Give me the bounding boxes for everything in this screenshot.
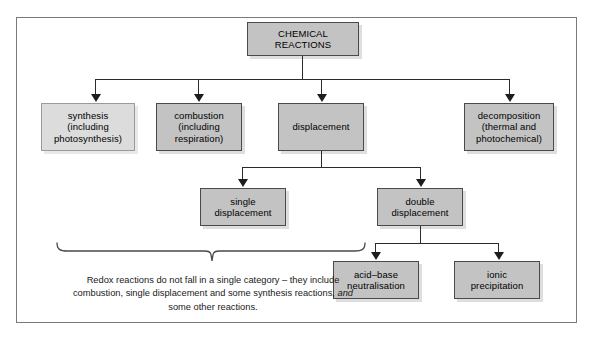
node-displacement-label: displacement xyxy=(289,121,352,132)
node-chemical-reactions-line2: REACTIONS xyxy=(275,39,331,50)
connector-level2-bus xyxy=(242,167,421,168)
node-combustion-label: combustion (including respiration) xyxy=(171,110,227,144)
connector-level3-bus xyxy=(375,243,498,244)
caption-emphasis: and xyxy=(338,288,354,298)
node-synthesis-line1: synthesis xyxy=(68,110,109,121)
node-decomposition-line2: (thermal and xyxy=(482,121,537,132)
node-double-displacement-label: double displacement xyxy=(388,196,451,218)
figure-canvas: CHEMICAL REACTIONS synthesis (including … xyxy=(0,0,596,341)
caption-part2: some other reactions. xyxy=(168,302,257,312)
node-single-displacement-label: single displacement xyxy=(211,196,274,218)
grouping-brace xyxy=(55,242,367,268)
figure-frame: CHEMICAL REACTIONS synthesis (including … xyxy=(16,17,577,323)
node-displacement[interactable]: displacement xyxy=(278,103,364,151)
node-double-displacement-line2: displacement xyxy=(391,207,448,218)
node-displacement-line1: displacement xyxy=(292,121,349,132)
node-decomposition-line3: photochemical) xyxy=(476,133,542,144)
caption-text: Redox reactions do not fall in a single … xyxy=(63,274,363,314)
node-chemical-reactions[interactable]: CHEMICAL REACTIONS xyxy=(247,22,359,56)
arrow-combustion xyxy=(194,94,204,102)
node-ionic-precipitation-label: ionic precipitation xyxy=(468,269,527,291)
caption-part1: Redox reactions do not fall in a single … xyxy=(73,275,339,298)
connector-displacement-stem xyxy=(321,151,322,167)
node-combustion-line1: combustion xyxy=(174,110,224,121)
node-single-displacement-line2: displacement xyxy=(214,207,271,218)
arrow-double-displacement xyxy=(416,179,426,187)
arrow-single-displacement xyxy=(238,179,248,187)
node-decomposition[interactable]: decomposition (thermal and photochemical… xyxy=(464,103,554,151)
node-double-displacement-line1: double xyxy=(405,196,434,207)
arrow-ionic-precipitation xyxy=(494,252,504,260)
node-ionic-precipitation[interactable]: ionic precipitation xyxy=(454,261,540,299)
node-decomposition-label: decomposition (thermal and photochemical… xyxy=(473,110,545,144)
node-synthesis[interactable]: synthesis (including photosynthesis) xyxy=(41,103,135,151)
arrow-acid-base-neutralisation xyxy=(371,252,381,260)
node-synthesis-line2: (including xyxy=(67,121,109,132)
node-single-displacement[interactable]: single displacement xyxy=(200,188,286,226)
node-decomposition-line1: decomposition xyxy=(478,110,541,121)
connector-double-displacement-stem xyxy=(420,226,421,243)
node-synthesis-line3: photosynthesis) xyxy=(54,133,122,144)
node-chemical-reactions-line1: CHEMICAL xyxy=(278,28,328,39)
node-combustion-line3: respiration) xyxy=(175,133,224,144)
node-double-displacement[interactable]: double displacement xyxy=(377,188,463,226)
arrow-displacement xyxy=(317,94,327,102)
node-combustion-line2: (including xyxy=(178,121,220,132)
connector-level1-bus xyxy=(95,79,510,80)
connector-root-stem xyxy=(302,56,303,79)
node-single-displacement-line1: single xyxy=(230,196,255,207)
node-chemical-reactions-label: CHEMICAL REACTIONS xyxy=(272,28,334,50)
node-synthesis-label: synthesis (including photosynthesis) xyxy=(51,110,125,144)
node-ionic-precipitation-line1: ionic xyxy=(487,269,507,280)
grouping-brace-path xyxy=(57,243,365,261)
node-ionic-precipitation-line2: precipitation xyxy=(471,280,524,291)
arrow-decomposition xyxy=(505,94,515,102)
node-combustion[interactable]: combustion (including respiration) xyxy=(156,103,242,151)
arrow-synthesis xyxy=(91,94,101,102)
grouping-brace-svg xyxy=(55,242,367,264)
